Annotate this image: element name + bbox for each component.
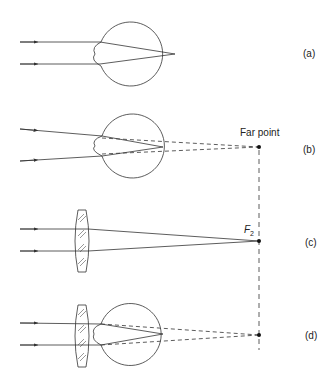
panel-d-diagram (20, 304, 261, 367)
panel-b-diagram (20, 114, 261, 178)
focal-point-dot (257, 239, 261, 243)
lens-d (75, 305, 89, 367)
eye-a (93, 22, 162, 86)
panel-label-b: (b) (303, 144, 315, 155)
eye-b (94, 114, 165, 178)
panel-c-diagram (20, 210, 261, 272)
optics-diagram (0, 0, 334, 383)
far-point-label: Far point (240, 127, 279, 138)
far-point-dot (257, 145, 261, 149)
far-point-dot-d (257, 333, 261, 337)
eye-d (93, 304, 161, 366)
panel-label-a: (a) (303, 48, 315, 59)
panel-label-c: (c) (305, 237, 317, 248)
panel-a-diagram (20, 22, 175, 86)
lens-c (75, 210, 89, 272)
panel-label-d: (d) (305, 330, 317, 341)
focal-point-label: F2 (244, 224, 254, 237)
